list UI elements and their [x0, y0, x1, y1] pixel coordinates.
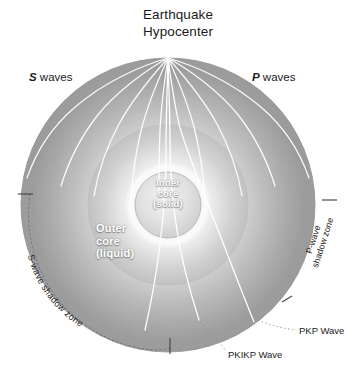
p-waves-symbol: P	[252, 71, 260, 83]
pkp-leader	[258, 320, 296, 330]
s-waves-text: waves	[37, 71, 73, 83]
inner-core-line-1: Inner	[143, 178, 193, 189]
inner-core-line-3: (solid)	[143, 199, 193, 210]
pkp-wave-label: PKP Wave	[299, 325, 344, 336]
s-waves-symbol: S	[29, 71, 37, 83]
s-waves-label: S waves	[29, 71, 72, 83]
inner-core-label: Inner core (solid)	[143, 178, 193, 210]
pkikp-wave-label: PKIKP Wave	[228, 349, 282, 360]
tick-right-lower	[282, 296, 292, 302]
outer-core-label: Outer core (liquid)	[96, 222, 158, 260]
outer-core-line-2: core	[96, 235, 158, 248]
outer-core-line-3: (liquid)	[96, 247, 158, 260]
outer-core-line-1: Outer	[96, 222, 158, 235]
p-waves-text: waves	[260, 71, 296, 83]
p-waves-label: P waves	[252, 71, 295, 83]
